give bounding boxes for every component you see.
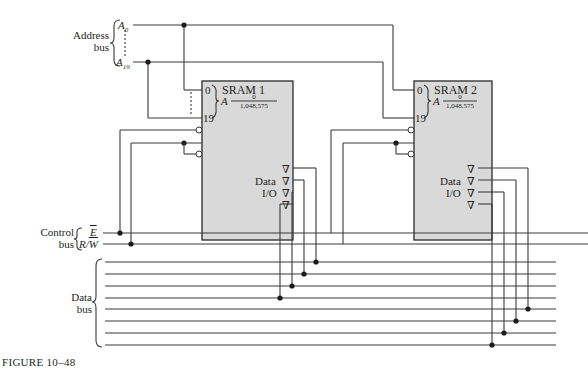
sram2-range-top: 0 bbox=[441, 93, 479, 101]
signal-a0: A0 bbox=[118, 19, 128, 36]
tri-state-icon: ∇ bbox=[282, 175, 290, 187]
sram2-w-bubble bbox=[408, 151, 414, 157]
data-bus-brace bbox=[92, 259, 102, 347]
figure-caption: FIGURE 10–48 bbox=[2, 356, 76, 368]
sram2-io-label: I/O bbox=[446, 187, 461, 199]
signal-a19: A19 bbox=[116, 56, 130, 73]
tri-state-icon: ∇ bbox=[467, 199, 475, 211]
signal-e: E bbox=[90, 226, 97, 238]
sram1-pin-19: 19 bbox=[203, 112, 214, 124]
control-bus-label: Control bus bbox=[34, 226, 74, 250]
tri-state-icon: ∇ bbox=[282, 199, 290, 211]
tri-state-icon: ∇ bbox=[467, 175, 475, 187]
sram2-range-bottom: 1,048,575 bbox=[441, 102, 479, 110]
sram2-data-label: Data bbox=[440, 175, 461, 187]
data-bus-label: Data bus bbox=[68, 291, 92, 315]
sram2-pin-19: 19 bbox=[415, 112, 426, 124]
data-bus-lines bbox=[105, 262, 556, 345]
signal-rw: R/W bbox=[79, 238, 98, 250]
tri-state-icon: ∇ bbox=[467, 163, 475, 175]
sram1-io-label: I/O bbox=[262, 187, 277, 199]
sram1-w-bubble bbox=[196, 151, 202, 157]
tri-state-icon: ∇ bbox=[467, 187, 475, 199]
sram2-e-bubble bbox=[408, 127, 414, 133]
tri-state-icon: ∇ bbox=[282, 163, 290, 175]
sram1-range-bottom: 1,048,575 bbox=[231, 102, 277, 110]
tri-state-icon: ∇ bbox=[282, 187, 290, 199]
junction-dot bbox=[145, 59, 150, 64]
sram2-address-letter: A bbox=[433, 95, 440, 107]
sram2-pin-0: 0 bbox=[417, 84, 423, 96]
circuit-diagram bbox=[0, 0, 588, 374]
sram1-address-letter: A bbox=[221, 95, 228, 107]
sram1-data-label: Data bbox=[255, 175, 276, 187]
sram1-pin-0: 0 bbox=[205, 84, 211, 96]
junction-dot bbox=[181, 22, 186, 27]
address-bus-label: Address bus bbox=[73, 29, 109, 53]
sram1-range-top: 0 bbox=[231, 93, 277, 101]
sram1-e-bubble bbox=[196, 127, 202, 133]
